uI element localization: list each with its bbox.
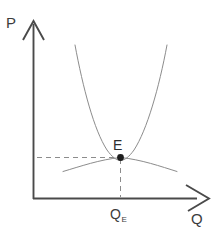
equilibrium-quantity-subscript: E	[121, 215, 126, 224]
equilibrium-diagram: P Q E QE	[0, 0, 222, 238]
equilibrium-quantity-label: QE	[110, 206, 127, 224]
y-axis-label: P	[6, 14, 16, 31]
x-axis-label: Q	[191, 210, 203, 227]
diagram-canvas: P Q E QE	[0, 0, 222, 238]
equilibrium-point-label: E	[113, 137, 122, 153]
equilibrium-point-marker	[117, 154, 124, 161]
equilibrium-quantity-base: Q	[110, 206, 121, 222]
